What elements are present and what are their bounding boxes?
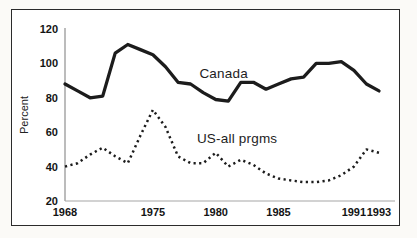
x-tick-label: 1993: [367, 206, 391, 218]
line-chart: 12010080604020196819751980198519911993Pe…: [12, 10, 398, 224]
y-tick-label: 120: [40, 23, 58, 35]
x-tick-label: 1985: [266, 206, 290, 218]
y-tick-label: 80: [46, 92, 58, 104]
y-tick-label: 40: [46, 161, 58, 173]
us-all-prgms-line: [65, 110, 379, 182]
y-tick-label: 60: [46, 126, 58, 138]
x-tick-label: 1968: [53, 206, 77, 218]
scan-background: 12010080604020196819751980198519911993Pe…: [0, 0, 417, 238]
y-axis-title: Percent: [18, 96, 30, 134]
series-label-canada: Canada: [199, 66, 248, 81]
y-tick-label: 100: [40, 57, 58, 69]
x-tick-label: 1991: [342, 206, 366, 218]
x-tick-label: 1975: [141, 206, 165, 218]
series-label-us-all-prgms: US-all prgms: [197, 131, 277, 146]
x-tick-label: 1980: [203, 206, 227, 218]
chart-figure-frame: 12010080604020196819751980198519911993Pe…: [11, 9, 400, 226]
